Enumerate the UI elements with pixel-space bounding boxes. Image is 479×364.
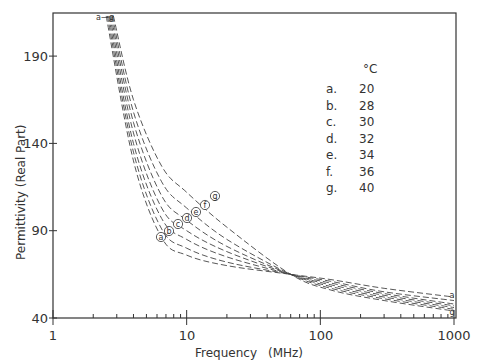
legend-key-4: e. — [326, 148, 337, 162]
legend-key-6: g. — [326, 181, 337, 195]
legend-value-4: 34 — [359, 148, 374, 162]
legend-value-0: 20 — [359, 82, 374, 96]
curve-g — [113, 16, 454, 311]
legend-key-2: c. — [326, 115, 336, 129]
end-label-a: a — [450, 291, 455, 300]
x-tick-10: 10 — [179, 328, 196, 343]
legend: a.20b.28c.30d.32e.34f.36g.40 — [326, 82, 374, 195]
curve-label-c: c — [176, 220, 180, 229]
curve-label-d: d — [184, 214, 189, 223]
legend-value-2: 30 — [359, 115, 374, 129]
x-tick-1: 1 — [49, 328, 57, 343]
x-tick-100: 100 — [309, 328, 334, 343]
end-label-g: g — [449, 308, 454, 317]
curve-label-e: e — [194, 208, 199, 217]
curve-label-a: a — [159, 233, 164, 242]
curve-b — [107, 16, 454, 301]
y-axis-label: Permittivity (Real Part) — [14, 125, 28, 260]
legend-key-1: b. — [326, 99, 337, 113]
x-axis-unit: (MHz) — [268, 346, 303, 360]
curve-f — [112, 16, 454, 309]
y-tick-190: 190 — [23, 49, 48, 64]
legend-header: °C — [363, 62, 377, 76]
y-tick-90: 90 — [31, 223, 48, 238]
curve-label-b: b — [166, 227, 171, 236]
curve-d — [110, 16, 454, 306]
curve-e — [111, 16, 454, 308]
permittivity-chart: abcdefgag 1 10 100 1000 190 140 90 40 Fr… — [0, 0, 479, 364]
curves — [106, 16, 454, 311]
legend-key-0: a. — [326, 82, 337, 96]
curve-a — [106, 16, 454, 297]
legend-key-5: f. — [326, 165, 333, 179]
curve-label-g: g — [212, 192, 217, 201]
legend-value-1: 28 — [359, 99, 374, 113]
legend-value-5: 36 — [359, 165, 374, 179]
y-tick-40: 40 — [31, 311, 48, 326]
x-tick-1000: 1000 — [437, 328, 470, 343]
curve-label-f: f — [204, 201, 207, 210]
curve-labels: abcdefgag — [156, 191, 454, 316]
curve-c — [109, 16, 454, 304]
legend-key-3: d. — [326, 132, 337, 146]
top-marker: a—g — [96, 13, 114, 22]
legend-value-3: 32 — [359, 132, 374, 146]
x-axis-label: Frequency — [195, 346, 257, 360]
plot-frame — [53, 13, 456, 318]
legend-value-6: 40 — [359, 181, 374, 195]
